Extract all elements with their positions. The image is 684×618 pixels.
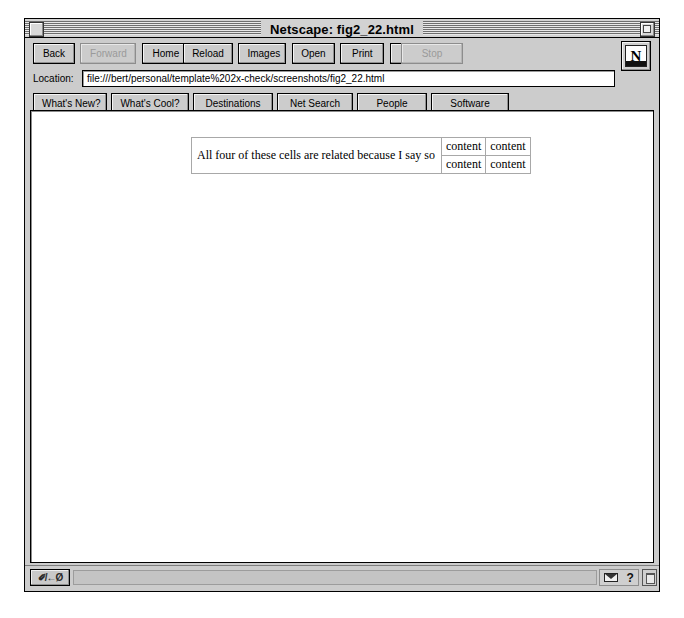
demo-table: All four of these cells are related beca…	[191, 137, 531, 174]
netscape-window: Netscape: fig2_22.html Back Forward Home…	[24, 18, 660, 592]
security-broken-key-icon[interactable]: ✐/←Ø	[30, 569, 70, 586]
netscape-n-icon: N	[625, 45, 647, 67]
resize-grip-icon[interactable]	[642, 569, 657, 586]
table-cell-r0c1: content	[486, 138, 530, 156]
nav-group-stop: Stop	[401, 43, 463, 64]
mail-icon[interactable]	[604, 573, 618, 582]
nav-group-primary: Back Forward Home	[33, 43, 190, 64]
content-wrapper: All four of these cells are related beca…	[30, 110, 654, 563]
back-button[interactable]: Back	[33, 43, 75, 64]
nav-group-actions: Reload Images Open Print Find	[183, 43, 432, 64]
table-cell-r0c0: content	[441, 138, 485, 156]
images-button[interactable]: Images	[238, 43, 286, 64]
page-body: All four of these cells are related beca…	[31, 111, 653, 174]
table-cell-spanning: All four of these cells are related beca…	[192, 138, 442, 174]
window-close-box[interactable]	[29, 22, 44, 37]
window-zoom-box[interactable]	[640, 22, 655, 37]
location-bar: Location: file:///bert/personal/template…	[31, 70, 653, 88]
status-icon-group: ?	[599, 569, 639, 586]
reload-button[interactable]: Reload	[183, 43, 233, 64]
table-cell-r1c0: content	[441, 156, 485, 174]
status-bar: ✐/←Ø ?	[25, 565, 659, 591]
window-titlebar: Netscape: fig2_22.html	[25, 19, 659, 38]
forward-button[interactable]: Forward	[80, 43, 136, 64]
location-input[interactable]: file:///bert/personal/template%202x-chec…	[82, 70, 615, 87]
table-row: All four of these cells are related beca…	[192, 138, 531, 156]
navigation-toolbar: Back Forward Home Reload Images Open Pri…	[31, 43, 653, 65]
help-icon[interactable]: ?	[626, 572, 633, 584]
location-label: Location:	[33, 73, 74, 84]
page-canvas: All four of these cells are related beca…	[30, 110, 654, 563]
titlebar-stripes	[25, 21, 659, 35]
table-cell-r1c1: content	[486, 156, 530, 174]
status-message-track	[73, 570, 597, 585]
netscape-logo-button[interactable]: N	[621, 41, 651, 71]
browser-chrome: Back Forward Home Reload Images Open Pri…	[25, 38, 659, 117]
stop-button[interactable]: Stop	[401, 43, 463, 64]
open-button[interactable]: Open	[292, 43, 335, 64]
print-button[interactable]: Print	[340, 43, 384, 64]
